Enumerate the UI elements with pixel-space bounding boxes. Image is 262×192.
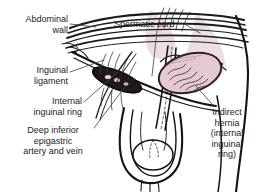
testis-outline	[133, 140, 173, 170]
label-inguinal-ligament: Inguinal ligament	[4, 65, 68, 86]
anatomy-figure: Abdominal wall Spermatic cord Inguinal l…	[0, 0, 262, 192]
ring-highlight-3	[123, 82, 128, 86]
leader-deep-epigastric	[94, 88, 124, 128]
testis-marking-right	[153, 140, 158, 158]
label-spermatic-cord: Spermatic cord	[114, 19, 192, 30]
testis-marking-left	[150, 140, 153, 158]
scrotum-group	[120, 108, 182, 192]
label-indirect-hernia: Indirect hernia (internal inguinal ring)	[198, 107, 256, 160]
scrotum-inner-left	[130, 110, 175, 176]
label-internal-inguinal-ring: Internal inguinal ring	[4, 96, 82, 117]
label-abdominal-wall: Abdominal wall	[6, 14, 68, 35]
scrotal-septum-left	[141, 112, 143, 150]
ligament-origin-dot	[73, 51, 77, 54]
label-deep-inferior-epigastric: Deep inferior epigastric artery and vein	[14, 125, 92, 157]
